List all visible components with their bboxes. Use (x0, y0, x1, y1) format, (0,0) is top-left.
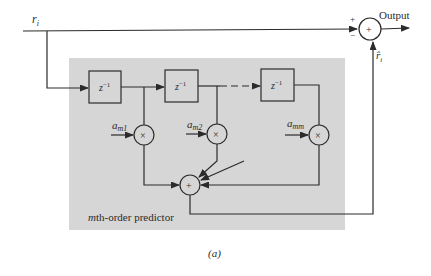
output-summer-symbol: + (366, 24, 372, 35)
output-arrow (381, 28, 409, 29)
input-label: ri (32, 12, 39, 28)
multiplier-symbol-1: × (140, 130, 146, 141)
output-minus-sign: − (350, 30, 355, 40)
predictor-label: mth-order predictor (88, 211, 174, 223)
multiplier-symbol-3: × (315, 130, 321, 141)
figure-caption: (a) (208, 247, 221, 260)
input-line (23, 29, 357, 31)
multiplier-symbol-2: × (213, 129, 219, 140)
output-plus-sign: + (350, 14, 355, 24)
predictor-summer-symbol: + (186, 180, 192, 191)
output-label: Output (379, 9, 410, 21)
feedback-label: r̂i (376, 49, 382, 64)
predictor-diagram: ri Output + − + r̂i z−1 z−1 z−1 am1 am2 … (0, 0, 431, 276)
